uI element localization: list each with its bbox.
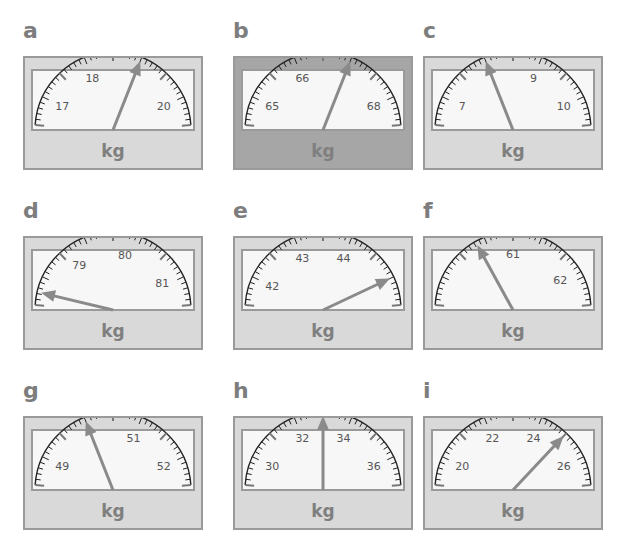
gauge-panel-h: h30323436kg bbox=[233, 378, 433, 550]
scale-gauge: 424344kg bbox=[233, 236, 413, 350]
scale-label: 81 bbox=[155, 277, 169, 290]
scale-label: 24 bbox=[527, 432, 541, 445]
scale-label: 52 bbox=[157, 460, 171, 473]
panel-letter: f bbox=[423, 198, 433, 223]
scale-label: 26 bbox=[557, 460, 571, 473]
scale-label: 32 bbox=[295, 432, 309, 445]
gauge-panel-g: g495152kg bbox=[23, 378, 223, 550]
scale-label: 17 bbox=[55, 100, 69, 113]
gauge-panel-a: a171820kg bbox=[23, 18, 223, 198]
scale-label: 65 bbox=[265, 100, 279, 113]
scale-label: 9 bbox=[530, 72, 537, 85]
unit-label: kg bbox=[235, 321, 411, 341]
scale-label: 61 bbox=[506, 248, 520, 261]
scale-label: 34 bbox=[337, 432, 351, 445]
unit-label: kg bbox=[425, 141, 601, 161]
unit-label: kg bbox=[25, 321, 201, 341]
scale-gauge: 6162kg bbox=[423, 236, 603, 350]
scale-gauge: 798081kg bbox=[23, 236, 203, 350]
gauge-panel-e: e424344kg bbox=[233, 198, 433, 378]
scale-label: 20 bbox=[157, 100, 171, 113]
scale-label: 43 bbox=[295, 252, 309, 265]
scale-label: 30 bbox=[265, 460, 279, 473]
scale-label: 44 bbox=[337, 252, 351, 265]
panel-letter: c bbox=[423, 18, 436, 43]
gauge-panel-i: i20222426kg bbox=[423, 378, 619, 550]
scale-label: 51 bbox=[127, 432, 141, 445]
panel-letter: b bbox=[233, 18, 249, 43]
unit-label: kg bbox=[25, 501, 201, 521]
panel-letter: d bbox=[23, 198, 39, 223]
scale-label: 68 bbox=[367, 100, 381, 113]
scale-label: 7 bbox=[459, 100, 466, 113]
unit-label: kg bbox=[425, 501, 601, 521]
scale-label: 22 bbox=[485, 432, 499, 445]
scale-gauge: 171820kg bbox=[23, 56, 203, 170]
scale-gauge: 30323436kg bbox=[233, 416, 413, 530]
scale-gauge: 7910kg bbox=[423, 56, 603, 170]
unit-label: kg bbox=[235, 141, 411, 161]
needle-arrow-icon bbox=[317, 418, 329, 430]
scale-label: 62 bbox=[553, 274, 567, 287]
scale-label: 80 bbox=[118, 249, 132, 262]
scale-label: 79 bbox=[72, 259, 86, 272]
gauge-panel-f: f6162kg bbox=[423, 198, 619, 378]
gauge-panel-c: c7910kg bbox=[423, 18, 619, 198]
gauge-panel-d: d798081kg bbox=[23, 198, 223, 378]
unit-label: kg bbox=[235, 501, 411, 521]
scale-label: 18 bbox=[85, 72, 99, 85]
panel-letter: i bbox=[423, 378, 431, 403]
panel-letter: h bbox=[233, 378, 249, 403]
gauge-panel-b: b656668kg bbox=[233, 18, 433, 198]
panel-letter: g bbox=[23, 378, 39, 403]
unit-label: kg bbox=[25, 141, 201, 161]
scale-label: 20 bbox=[455, 460, 469, 473]
scale-gauge: 20222426kg bbox=[423, 416, 603, 530]
panel-letter: a bbox=[23, 18, 38, 43]
scale-gauge: 495152kg bbox=[23, 416, 203, 530]
scale-label: 66 bbox=[295, 72, 309, 85]
scale-label: 36 bbox=[367, 460, 381, 473]
scale-label: 42 bbox=[265, 280, 279, 293]
unit-label: kg bbox=[425, 321, 601, 341]
scale-gauge: 656668kg bbox=[233, 56, 413, 170]
scale-label: 10 bbox=[557, 100, 571, 113]
panel-letter: e bbox=[233, 198, 248, 223]
scale-label: 49 bbox=[55, 460, 69, 473]
